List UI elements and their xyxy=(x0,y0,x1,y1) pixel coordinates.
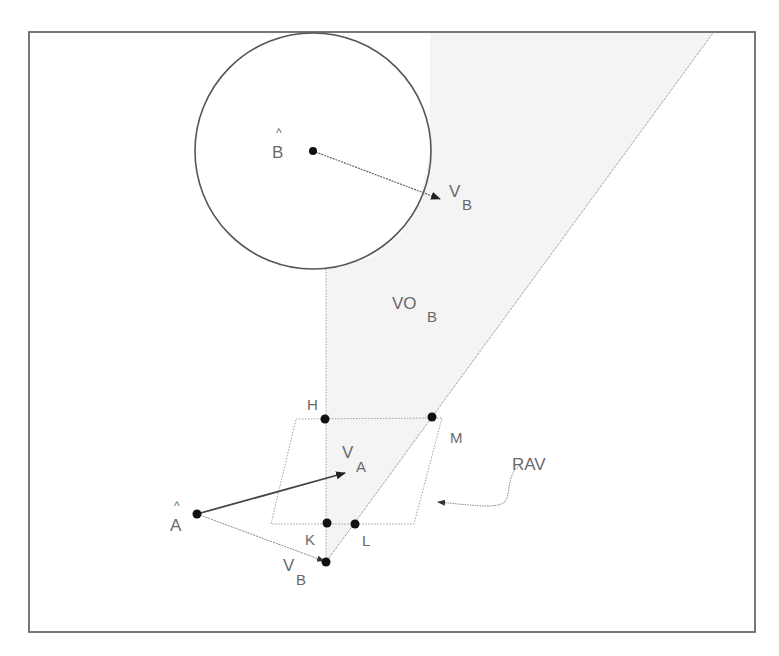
velocity-obstacle-diagram: ^ B V B VO B H M V A ^ A K L V B RAV xyxy=(0,0,779,656)
label-k: K xyxy=(305,531,315,548)
point-a-dot xyxy=(193,510,202,519)
label-vo-sub: B xyxy=(427,308,437,325)
point-k-dot xyxy=(323,519,332,528)
label-vo: VO xyxy=(392,294,417,313)
label-vb-top-sub: B xyxy=(462,196,472,213)
label-a-hat-accent: ^ xyxy=(174,499,180,513)
label-rav: RAV xyxy=(512,455,546,474)
label-b-hat-accent: ^ xyxy=(276,126,282,140)
label-vb-bottom: V xyxy=(283,556,295,575)
label-b-hat: B xyxy=(272,143,283,162)
point-b-dot xyxy=(309,147,317,155)
label-va: V xyxy=(342,443,354,462)
label-h: H xyxy=(307,396,318,413)
label-va-sub: A xyxy=(356,458,366,475)
point-l-dot xyxy=(351,520,360,529)
label-a-hat: A xyxy=(170,516,182,535)
label-l: L xyxy=(362,532,370,549)
point-m-dot xyxy=(428,413,437,422)
label-vb-bottom-sub: B xyxy=(296,571,306,588)
label-m: M xyxy=(450,429,463,446)
label-vb-top: V xyxy=(449,182,461,201)
point-h-dot xyxy=(321,415,330,424)
point-vb-apex-dot xyxy=(322,558,331,567)
